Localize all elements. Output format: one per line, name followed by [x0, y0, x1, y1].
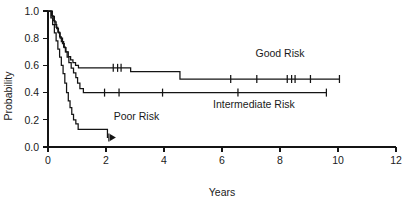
x-tick-label-4: 4 — [161, 154, 167, 166]
x-tick-label-8: 8 — [277, 154, 283, 166]
y-tick-label-0.8: 0.8 — [24, 32, 39, 44]
survival-curve-poor-risk — [48, 11, 108, 137]
series-label-good-risk: Good Risk — [255, 47, 305, 59]
x-tick-label-2: 2 — [103, 154, 109, 166]
curve-labels: Good RiskIntermediate RiskPoor Risk — [114, 47, 306, 123]
y-tick-label-0.6: 0.6 — [24, 59, 39, 71]
y-tick-label-0.2: 0.2 — [24, 114, 39, 126]
y-tick-label-0.0: 0.0 — [24, 141, 39, 153]
x-tick-label-0: 0 — [45, 154, 51, 166]
plot-area: 0246810120.00.20.40.60.81.0 Good RiskInt… — [0, 0, 406, 218]
terminal-arrow-poor-risk — [110, 134, 116, 141]
y-tick-label-0.4: 0.4 — [24, 86, 39, 98]
survival-curve-good-risk — [48, 11, 339, 79]
x-tick-label-12: 12 — [390, 154, 402, 166]
x-axis-title: Years — [209, 186, 235, 198]
series-label-intermediate-risk: Intermediate Risk — [213, 98, 295, 110]
axes: 0246810120.00.20.40.60.81.0 — [24, 5, 402, 166]
y-tick-label-1.0: 1.0 — [24, 5, 39, 17]
survival-curve-figure: 0246810120.00.20.40.60.81.0 Good RiskInt… — [0, 0, 406, 218]
x-tick-label-10: 10 — [332, 154, 344, 166]
series-label-poor-risk: Poor Risk — [114, 110, 160, 122]
x-tick-label-6: 6 — [219, 154, 225, 166]
y-axis-title: Probability — [2, 71, 14, 121]
survival-curves — [48, 11, 339, 141]
